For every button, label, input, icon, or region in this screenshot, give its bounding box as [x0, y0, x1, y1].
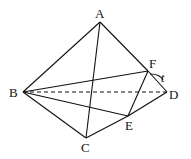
edge-BF	[23, 71, 148, 92]
label-B: B	[9, 85, 18, 100]
label-A: A	[95, 6, 105, 21]
label-F: F	[149, 56, 156, 71]
label-E: E	[125, 118, 133, 133]
label-D: D	[169, 87, 178, 102]
label-C: C	[81, 140, 90, 155]
label-t: t	[161, 71, 165, 85]
edge-AF	[100, 22, 148, 71]
tetrahedron-diagram: A B C D E F t	[0, 0, 191, 159]
edge-CE	[86, 116, 128, 138]
